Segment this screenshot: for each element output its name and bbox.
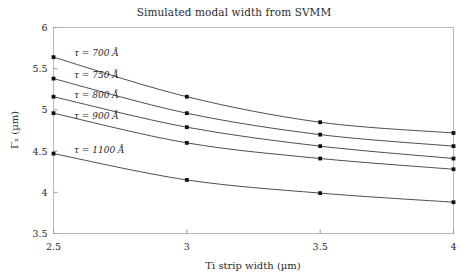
data-point-marker [452, 131, 456, 135]
series-annotation-label: τ = 700 Å [74, 47, 119, 58]
data-point-marker [318, 144, 322, 148]
x-axis-title: Ti strip width (µm) [205, 260, 300, 271]
series-annotations: τ = 700 Åτ = 750 Åτ = 800 Åτ = 900 Åτ = … [74, 47, 125, 155]
data-point-marker [318, 133, 322, 137]
data-point-marker [185, 95, 189, 99]
chart-figure: Simulated modal width from SVMM 3.544.55… [0, 0, 468, 275]
y-tick-label: 4 [41, 187, 47, 198]
y-axis-title: Γₓ (µm) [9, 111, 20, 149]
series-annotation-label: τ = 750 Å [74, 69, 119, 80]
data-point-marker [452, 157, 456, 161]
data-point-marker [52, 152, 56, 156]
series-annotation-label: τ = 900 Å [74, 110, 119, 121]
data-point-marker [318, 120, 322, 124]
data-point-marker [452, 167, 456, 171]
data-point-marker [185, 111, 189, 115]
data-point-marker [318, 157, 322, 161]
x-tick-label: 3.5 [313, 241, 328, 252]
x-tick-label: 4 [450, 241, 456, 252]
y-tick-label: 6 [41, 22, 47, 33]
data-point-marker [52, 55, 56, 59]
y-tick-label: 5 [41, 104, 47, 115]
data-series [52, 152, 456, 204]
x-axis-ticks: 2.533.54 [46, 230, 457, 252]
data-point-marker [185, 141, 189, 145]
x-tick-label: 2.5 [46, 241, 61, 252]
series-annotation-label: τ = 800 Å [74, 89, 119, 100]
data-point-marker [52, 111, 56, 115]
x-tick-label: 3 [184, 241, 190, 252]
plot-frame [54, 28, 454, 234]
y-tick-label: 3.5 [32, 228, 47, 239]
plot-area: 3.544.555.56 2.533.54 τ = 700 Åτ = 750 Å… [0, 0, 468, 275]
data-point-marker [52, 77, 56, 81]
y-tick-label: 4.5 [32, 146, 47, 157]
y-tick-label: 5.5 [32, 63, 47, 74]
series-annotation-label: τ = 1100 Å [74, 144, 125, 155]
data-point-marker [318, 191, 322, 195]
series-line [54, 154, 454, 203]
data-point-marker [52, 95, 56, 99]
data-point-marker [452, 144, 456, 148]
data-point-marker [185, 178, 189, 182]
data-point-marker [185, 125, 189, 129]
data-point-marker [452, 200, 456, 204]
